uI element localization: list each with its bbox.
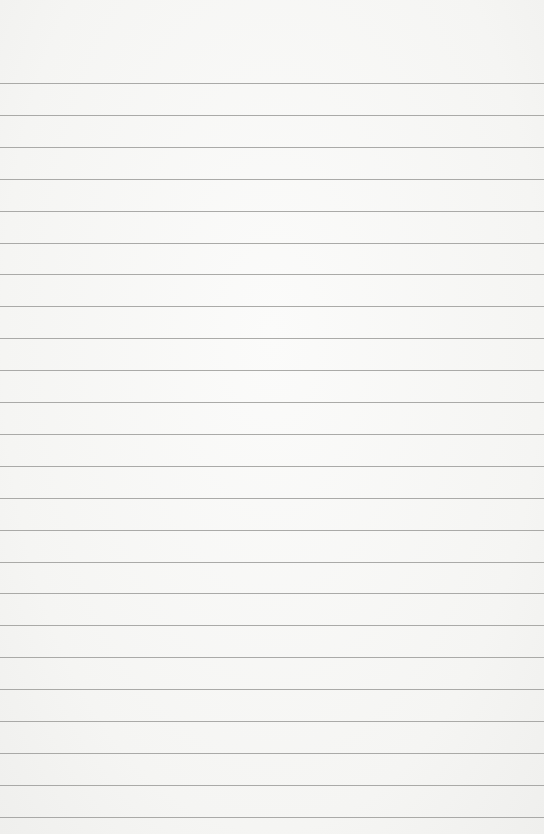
ruled-line <box>0 498 544 499</box>
ruled-line <box>0 83 544 84</box>
ruled-line <box>0 179 544 180</box>
ruled-line <box>0 466 544 467</box>
ruled-line <box>0 115 544 116</box>
ruled-line <box>0 338 544 339</box>
ruled-line <box>0 306 544 307</box>
ruled-line <box>0 785 544 786</box>
ruled-line <box>0 402 544 403</box>
ruled-line <box>0 274 544 275</box>
ruled-line <box>0 657 544 658</box>
ruled-line <box>0 530 544 531</box>
ruled-line <box>0 562 544 563</box>
ruled-line <box>0 370 544 371</box>
ruled-line <box>0 434 544 435</box>
lined-paper-sheet <box>0 0 544 834</box>
ruled-line <box>0 817 544 818</box>
ruled-line <box>0 625 544 626</box>
ruled-line <box>0 211 544 212</box>
ruled-line <box>0 243 544 244</box>
ruled-line <box>0 721 544 722</box>
ruled-line <box>0 593 544 594</box>
ruled-line <box>0 753 544 754</box>
ruled-line <box>0 147 544 148</box>
ruled-line <box>0 689 544 690</box>
